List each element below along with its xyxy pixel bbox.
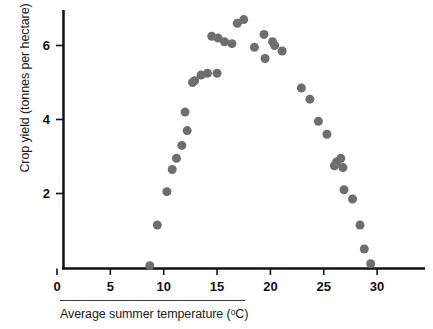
x-tick-label-25: 25: [317, 279, 331, 294]
data-point: [314, 117, 323, 126]
x-axis-title-tail: C): [235, 307, 248, 321]
scatter-plot-svg: 051015202530 246: [0, 0, 433, 300]
x-axis-title: Average summer temperature (oC): [57, 307, 297, 321]
x-axis-title-block: Average summer temperature (oC): [57, 300, 297, 321]
data-point-group: [145, 15, 375, 270]
data-point: [356, 220, 365, 229]
y-tick-label-4: 4: [43, 112, 51, 127]
data-point: [261, 54, 270, 63]
y-axis-title: Crop yield (tonnes per hectare): [18, 0, 38, 198]
data-point: [172, 154, 181, 163]
plot-area: 051015202530 246 Crop yield (tonnes per …: [0, 0, 433, 300]
data-point: [227, 39, 236, 48]
data-point: [168, 165, 177, 174]
data-point: [322, 130, 331, 139]
x-axis-tick-labels: 051015202530: [53, 279, 384, 294]
data-point: [250, 43, 259, 52]
data-point: [297, 84, 306, 93]
data-point: [340, 185, 349, 194]
data-point: [360, 245, 369, 254]
data-point: [330, 161, 339, 170]
data-point: [153, 220, 162, 229]
y-tick-label-6: 6: [43, 38, 50, 53]
x-tick-label-30: 30: [370, 279, 384, 294]
data-point: [162, 187, 171, 196]
x-axis-title-rule: [60, 300, 245, 301]
data-point: [145, 261, 154, 270]
data-point: [239, 15, 248, 24]
x-tick-label-10: 10: [156, 279, 170, 294]
y-axis-tick-labels: 246: [43, 38, 51, 201]
data-point: [181, 108, 190, 117]
x-axis-title-text: Average summer temperature (: [60, 307, 231, 321]
x-tick-label-5: 5: [107, 279, 114, 294]
data-point: [220, 37, 229, 46]
data-point: [270, 41, 279, 50]
data-point: [213, 69, 222, 78]
data-point: [278, 47, 287, 56]
data-point: [366, 259, 375, 268]
data-point: [338, 163, 347, 172]
x-tick-label-20: 20: [263, 279, 277, 294]
data-point: [305, 95, 314, 104]
data-point: [348, 195, 357, 204]
data-point: [177, 141, 186, 150]
data-point: [259, 30, 268, 39]
data-point: [183, 126, 192, 135]
axis-lines: [62, 10, 425, 269]
data-point: [336, 154, 345, 163]
chart-figure: 051015202530 246 Crop yield (tonnes per …: [0, 0, 433, 329]
y-tick-label-2: 2: [43, 186, 50, 201]
x-tick-label-0: 0: [53, 279, 60, 294]
x-tick-label-15: 15: [210, 279, 224, 294]
data-point: [203, 69, 212, 78]
